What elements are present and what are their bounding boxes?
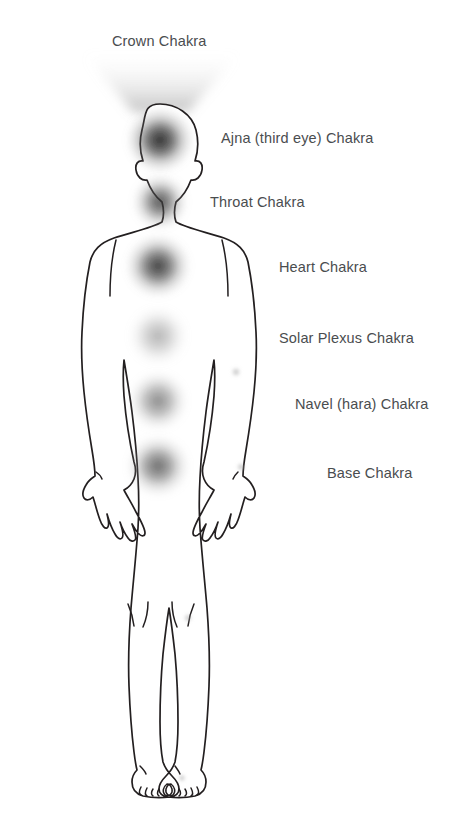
label-ajna-chakra: Ajna (third eye) Chakra xyxy=(221,129,374,147)
wrist-dot xyxy=(236,462,246,472)
elbow-dot xyxy=(231,367,242,378)
knee-dot xyxy=(183,613,193,623)
throat-chakra-glow xyxy=(132,174,188,230)
navel-chakra-glow xyxy=(128,371,188,431)
label-crown-chakra: Crown Chakra xyxy=(112,32,206,50)
label-navel-chakra: Navel (hara) Chakra xyxy=(295,395,428,413)
label-solar-plexus-chakra: Solar Plexus Chakra xyxy=(279,329,414,347)
human-body-figure xyxy=(0,0,469,835)
label-throat-chakra: Throat Chakra xyxy=(210,193,305,211)
ajna-chakra-glow xyxy=(126,107,194,173)
base-chakra-glow xyxy=(126,435,190,497)
solar-plexus-chakra-glow xyxy=(128,306,188,366)
label-base-chakra: Base Chakra xyxy=(327,464,412,482)
ankle-dot xyxy=(178,774,187,783)
label-heart-chakra: Heart Chakra xyxy=(279,258,367,276)
chakra-diagram: Crown Chakra Ajna (third eye) Chakra Thr… xyxy=(0,0,469,835)
heart-chakra-glow xyxy=(125,234,191,298)
